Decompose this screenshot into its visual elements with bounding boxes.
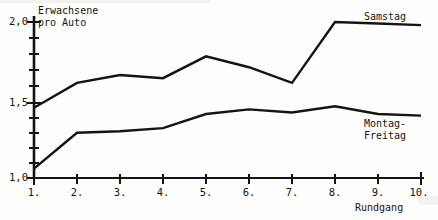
y-axis-title-line2: pro Auto bbox=[38, 17, 86, 28]
axis-lines bbox=[30, 16, 424, 179]
y-axis-title: Erwachsenepro Auto bbox=[38, 5, 98, 28]
y-tick-label-1-0: 1,0 bbox=[2, 172, 28, 183]
x-tick-label-7: 7. bbox=[281, 187, 303, 198]
x-tick-label-6: 6. bbox=[238, 187, 260, 198]
y-tick-label-1-5: 1,5 bbox=[2, 97, 28, 108]
x-tick-label-2: 2. bbox=[66, 187, 88, 198]
x-tick-label-1: 1. bbox=[23, 187, 45, 198]
x-tick-label-9: 9. bbox=[367, 187, 389, 198]
y-tick-label-2-0: 2,0 bbox=[2, 16, 28, 27]
y-axis-title-line1: Erwachsene bbox=[38, 5, 98, 16]
x-axis-title: Rundgang bbox=[355, 202, 403, 213]
x-tick-label-5: 5. bbox=[195, 187, 217, 198]
x-tick-label-3: 3. bbox=[109, 187, 131, 198]
series-label-samstag: Samstag bbox=[364, 11, 406, 22]
series-label-montag-freitag-line2: Freitag bbox=[364, 130, 406, 141]
series-line-samstag bbox=[34, 22, 421, 108]
x-tick-label-8: 8. bbox=[324, 187, 346, 198]
series-label-montag-freitag-line1: Montag- bbox=[364, 118, 406, 129]
x-tick-label-10: 10. bbox=[408, 187, 430, 198]
chart-container: Erwachsenepro Auto Rundgang 2,0 1,5 1,0 … bbox=[0, 0, 438, 220]
x-tick-label-4: 4. bbox=[152, 187, 174, 198]
series-line-montag-freitag bbox=[34, 106, 421, 168]
series-label-montag-freitag: Montag-Freitag bbox=[364, 118, 406, 141]
